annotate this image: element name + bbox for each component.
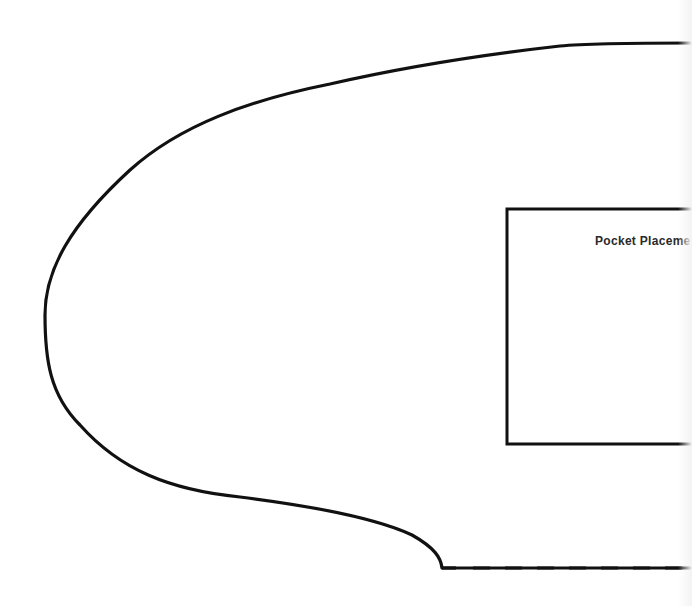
pattern-canvas: Pocket Placeme (0, 0, 692, 606)
pattern-outline (45, 43, 692, 568)
page-edge-shadow (678, 0, 692, 606)
pocket-placement-label: Pocket Placeme (595, 234, 691, 248)
pattern-drawing (0, 0, 692, 606)
